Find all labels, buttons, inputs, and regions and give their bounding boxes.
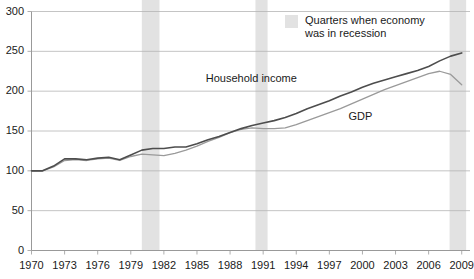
x-axis-tick-label: 1973	[49, 260, 81, 271]
x-axis-tick-label: 1976	[82, 260, 114, 271]
x-axis-tick-label: 2009	[446, 260, 474, 271]
y-axis-tick-label: 250	[0, 45, 24, 56]
legend-label-recession: Quarters when economy was in recession	[305, 14, 425, 39]
y-axis-tick-label: 100	[0, 165, 24, 176]
x-axis-tick-label: 1991	[247, 260, 279, 271]
gridline-group	[32, 12, 471, 211]
axis-group	[28, 12, 471, 255]
y-axis-tick-label: 150	[0, 125, 24, 136]
series-line-gdp	[32, 71, 462, 171]
x-axis-tick-label: 1970	[16, 260, 48, 271]
series-line-group	[32, 53, 462, 171]
x-axis-tick-label: 2000	[346, 260, 378, 271]
recession-band	[142, 0, 160, 251]
series-line-household-income	[32, 53, 462, 171]
y-axis-tick-label: 50	[0, 205, 24, 216]
recession-band	[450, 0, 467, 251]
y-axis-tick-label: 200	[0, 85, 24, 96]
series-label-gdp: GDP	[348, 110, 372, 122]
y-axis-tick-label: 0	[0, 245, 24, 256]
series-label-household-income: Household income	[206, 72, 297, 84]
x-axis-tick-label: 1979	[115, 260, 147, 271]
x-axis-tick-label: 1982	[148, 260, 180, 271]
x-axis-tick-label: 1985	[181, 260, 213, 271]
recession-chart: 050100150200250300 197019731976197919821…	[0, 0, 474, 279]
legend-swatch-recession	[285, 15, 298, 28]
x-axis-tick-label: 1997	[313, 260, 345, 271]
recession-band	[255, 0, 267, 251]
x-axis-tick-label: 2006	[413, 260, 445, 271]
x-axis-tick-label: 1988	[214, 260, 246, 271]
x-axis-tick-label: 2003	[380, 260, 412, 271]
y-axis-tick-label: 300	[0, 6, 24, 17]
chart-canvas	[0, 0, 474, 279]
x-axis-tick-label: 1994	[280, 260, 312, 271]
legend: Quarters when economy was in recession	[285, 14, 425, 39]
